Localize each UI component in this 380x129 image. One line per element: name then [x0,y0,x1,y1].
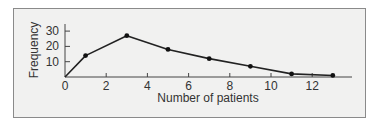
data-point [207,56,212,61]
data-point [166,47,171,52]
data-point [83,53,88,58]
data-point [248,64,253,69]
x-ticks: 024681012 [62,73,320,93]
x-tick-label: 12 [306,79,320,93]
y-ticks: 102030 [46,24,70,69]
x-tick-label: 2 [103,79,110,93]
x-axis-title: Number of patients [157,91,258,105]
x-tick-label: 0 [62,79,69,93]
data-point [289,72,294,77]
x-tick-label: 4 [144,79,151,93]
y-tick-label: 20 [46,39,60,53]
data-points [83,33,335,78]
y-tick-label: 10 [46,55,60,69]
frequency-polygon-chart: 102030 024681012 Number of patients Freq… [0,0,380,129]
data-point [124,33,129,38]
x-tick-label: 10 [264,79,278,93]
axes [65,24,352,77]
data-line [65,36,333,77]
y-axis-title: Frequency [27,22,41,79]
data-point [330,73,335,78]
y-tick-label: 30 [46,24,60,38]
